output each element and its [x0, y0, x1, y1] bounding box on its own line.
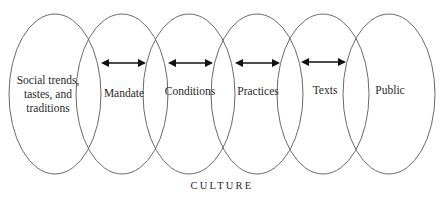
label-social-line-3: traditions — [26, 102, 70, 114]
diagram-canvas: Social trends, tastes, and traditions Ma… — [0, 0, 441, 199]
label-social-line-2: tastes, and — [24, 88, 72, 101]
label-practices: Practices — [237, 85, 279, 97]
double-arrow-icon — [235, 59, 280, 67]
double-arrow-icon — [101, 59, 146, 67]
label-social-line-1: Social trends, — [17, 74, 80, 87]
label-texts: Texts — [313, 84, 338, 96]
label-public: Public — [375, 84, 404, 96]
label-mandate: Mandate — [104, 87, 144, 99]
diagram-caption: CULTURE — [191, 180, 254, 191]
label-conditions: Conditions — [165, 85, 216, 97]
double-arrow-icon — [168, 59, 213, 67]
culture-diagram: Social trends, tastes, and traditions Ma… — [0, 0, 441, 199]
double-arrow-icon — [301, 58, 346, 66]
